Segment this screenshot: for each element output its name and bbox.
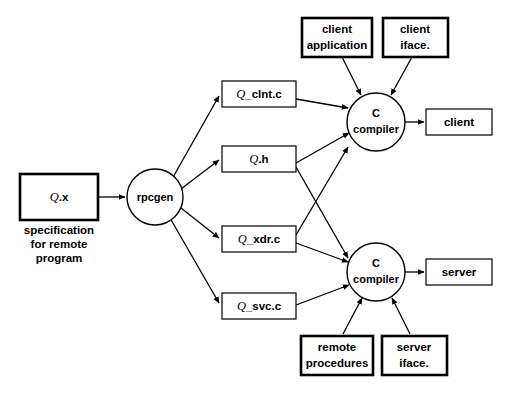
spec-caption-line2: for remote bbox=[31, 238, 88, 250]
svg-text:Q_clnt.c: Q_clnt.c bbox=[236, 87, 282, 101]
client-output-label: client bbox=[444, 116, 474, 128]
client-application-line2: application bbox=[307, 39, 368, 51]
diagram-canvas: Q.x specification for remote program rpc… bbox=[0, 0, 511, 393]
svg-text:Q_xdr.c: Q_xdr.c bbox=[238, 232, 281, 246]
node-client-output[interactable]: client bbox=[426, 109, 492, 135]
c-compiler-client-line1: C bbox=[372, 107, 380, 119]
spec-caption-line3: program bbox=[36, 252, 83, 264]
node-c-compiler-client[interactable]: C compiler bbox=[347, 93, 405, 151]
spec-caption: specification for remote program bbox=[24, 224, 94, 264]
edge-rpcgen-to-q-h bbox=[181, 160, 219, 189]
edge-svc-c-to-c-compiler-server bbox=[296, 285, 349, 305]
remote-procedures-line2: procedures bbox=[306, 357, 369, 369]
server-iface-line1: server bbox=[397, 341, 432, 353]
client-iface-line2: iface. bbox=[400, 39, 429, 51]
rpcgen-label: rpcgen bbox=[137, 191, 174, 203]
clnt-c-q-prefix: Q bbox=[236, 87, 245, 101]
svg-text:Q_svc.c: Q_svc.c bbox=[237, 299, 282, 313]
c-compiler-server-line1: C bbox=[372, 257, 380, 269]
svg-text:Q.x: Q.x bbox=[50, 190, 69, 204]
node-clnt-c[interactable]: Q_clnt.c bbox=[222, 81, 296, 107]
nodes-layer: Q.x specification for remote program rpc… bbox=[20, 18, 492, 375]
node-c-compiler-server[interactable]: C compiler bbox=[347, 243, 405, 301]
c-compiler-client-line2: compiler bbox=[353, 123, 400, 135]
edge-xdr-c-to-c-compiler-server bbox=[296, 243, 348, 262]
server-output-label: server bbox=[442, 266, 477, 278]
xdr-c-label: _xdr.c bbox=[246, 233, 281, 245]
svc-c-q-prefix: Q bbox=[237, 299, 246, 313]
node-client-iface[interactable]: client iface. bbox=[383, 18, 448, 57]
spec-caption-line1: specification bbox=[24, 224, 94, 236]
remote-procedures-line1: remote bbox=[318, 341, 356, 353]
c-compiler-server-line2: compiler bbox=[353, 273, 400, 285]
node-server-output[interactable]: server bbox=[426, 259, 492, 285]
server-iface-line2: iface. bbox=[399, 357, 428, 369]
clnt-c-label: _clnt.c bbox=[244, 88, 282, 100]
node-svc-c[interactable]: Q_svc.c bbox=[222, 293, 296, 319]
rpcgen-flow-diagram: Q.x specification for remote program rpc… bbox=[0, 0, 511, 393]
edge-server-iface-to-c-compiler-server bbox=[392, 298, 410, 334]
edge-remote-procedures-to-c-compiler-server bbox=[343, 298, 362, 334]
node-spec-file[interactable]: Q.x bbox=[20, 174, 98, 220]
svc-c-label: _svc.c bbox=[245, 300, 282, 312]
spec-file-label: .x bbox=[59, 191, 69, 203]
node-q-h[interactable]: Q.h bbox=[222, 146, 296, 172]
edge-rpcgen-to-xdr-c bbox=[181, 208, 219, 238]
edge-clnt-c-to-c-compiler-client bbox=[296, 99, 348, 108]
edge-xdr-c-to-c-compiler-client bbox=[296, 147, 348, 235]
node-client-application[interactable]: client application bbox=[302, 18, 372, 57]
edge-rpcgen-to-svc-c bbox=[170, 218, 219, 303]
node-xdr-c[interactable]: Q_xdr.c bbox=[222, 226, 296, 252]
q-h-q-prefix: Q bbox=[249, 152, 258, 166]
edge-client-application-to-c-compiler-client bbox=[342, 57, 361, 95]
node-remote-procedures[interactable]: remote procedures bbox=[301, 336, 373, 375]
spec-file-q-prefix: Q bbox=[50, 190, 59, 204]
edge-q-h-to-c-compiler-server bbox=[296, 167, 348, 258]
q-h-label: .h bbox=[258, 153, 268, 165]
node-rpcgen[interactable]: rpcgen bbox=[127, 169, 183, 225]
svg-text:Q.h: Q.h bbox=[249, 152, 268, 166]
edge-client-iface-to-c-compiler-client bbox=[391, 57, 412, 95]
client-iface-line1: client bbox=[400, 23, 430, 35]
node-server-iface[interactable]: server iface. bbox=[382, 336, 447, 375]
edge-rpcgen-to-clnt-c bbox=[172, 96, 219, 179]
client-application-line1: client bbox=[322, 23, 352, 35]
xdr-c-q-prefix: Q bbox=[238, 232, 247, 246]
